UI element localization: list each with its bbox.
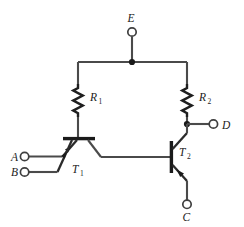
resistor-r2-symbol: [182, 84, 192, 117]
circuit-schematic-svg: E A B C D R 1 R 2 T 1 T 2: [0, 0, 244, 227]
terminal-b-circle[interactable]: [20, 168, 28, 176]
terminal-a-label: A: [10, 151, 19, 163]
transistor-t2-label: T: [179, 146, 187, 158]
circuit-figure: E A B C D R 1 R 2 T 1 T 2: [0, 0, 244, 227]
transistor-t2-sublabel: 2: [187, 152, 191, 161]
resistor-r2-label: R: [198, 91, 206, 103]
terminal-b-label: B: [11, 166, 18, 178]
terminal-d-label: D: [221, 119, 231, 131]
transistor-t1-label: T: [72, 163, 80, 175]
terminal-e-label: E: [127, 12, 135, 24]
resistor-r2-sublabel: 2: [208, 97, 212, 106]
resistor-r1-sublabel: 1: [99, 97, 103, 106]
supply-rail-junction-dot: [129, 59, 135, 65]
terminal-c-label: C: [183, 211, 191, 223]
transistor-t1-sublabel: 1: [80, 169, 84, 178]
terminal-e-circle[interactable]: [128, 28, 136, 36]
terminal-d-circle[interactable]: [209, 120, 217, 128]
t1-collector-lead: [88, 140, 101, 157]
resistor-r1-symbol: [73, 84, 83, 117]
terminal-a-circle[interactable]: [20, 152, 28, 160]
terminal-c-circle[interactable]: [183, 200, 191, 208]
resistor-r1-label: R: [89, 91, 97, 103]
